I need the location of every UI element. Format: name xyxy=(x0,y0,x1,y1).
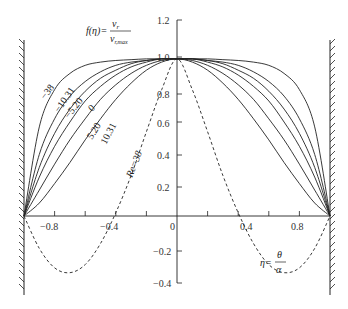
y-tick-label: 0.6 xyxy=(157,118,170,129)
y-tick-label: 0.2 xyxy=(157,182,170,193)
y-tick-label: −0.4 xyxy=(153,278,171,289)
y-tick-label: −0.2 xyxy=(153,246,171,257)
y-tick-label: 0.8 xyxy=(157,89,170,100)
velocity-profile-chart: −0.8 −0.4 0 0.4 0.8 1.2 1.0 0.8 0.6 0.4 … xyxy=(0,0,348,309)
left-wall xyxy=(19,39,24,295)
x-axis-formula: η= η= θ α xyxy=(260,249,286,275)
y-tick-label: 0.4 xyxy=(157,150,170,161)
svg-text:α: α xyxy=(276,264,282,275)
curve-label: 0 xyxy=(86,102,97,113)
curve-label-re38: Re=38 xyxy=(123,149,144,179)
x-tick-label: 0 xyxy=(170,221,175,232)
y-tick-label: 1.2 xyxy=(157,15,170,26)
x-tick-label: 0.8 xyxy=(291,221,304,232)
curve-label: 10.31 xyxy=(98,121,118,146)
svg-text:η=: η= xyxy=(260,257,272,268)
svg-text:vr,max: vr,max xyxy=(110,33,128,45)
svg-text:vr: vr xyxy=(112,18,119,31)
curve-label: −38 xyxy=(38,82,56,101)
svg-text:θ: θ xyxy=(277,249,282,260)
x-tick-label: −0.8 xyxy=(40,221,58,232)
svg-text:f(η)=: f(η)= xyxy=(86,25,107,37)
y-axis-formula: f(η)= vr vr,max xyxy=(86,18,131,45)
right-wall xyxy=(330,39,335,295)
